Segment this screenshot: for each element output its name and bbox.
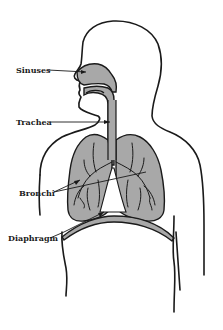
label-bronchi: Bronchi — [19, 188, 55, 198]
torso-right-lower — [173, 216, 175, 312]
respiratory-diagram — [0, 0, 223, 330]
label-trachea: Trachea — [16, 117, 52, 127]
trachea — [108, 100, 116, 160]
torso-right-inner — [176, 232, 180, 290]
torso-left-lower — [62, 232, 67, 296]
label-sinuses: Sinuses — [16, 65, 51, 75]
label-diaphragm: Diaphragm — [8, 233, 58, 243]
